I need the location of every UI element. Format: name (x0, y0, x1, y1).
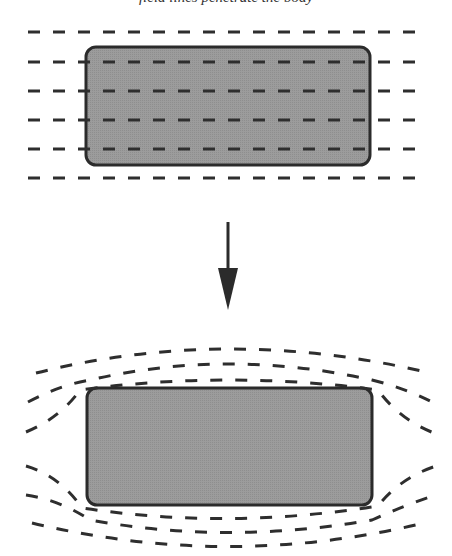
bottom-panel-expelled-field (26, 349, 436, 547)
top-body-rect (86, 47, 370, 165)
bottom-body-rect (87, 388, 372, 505)
field-diagram (0, 0, 452, 556)
down-arrow-icon (218, 222, 238, 310)
top-panel-uniform-field (28, 32, 422, 178)
